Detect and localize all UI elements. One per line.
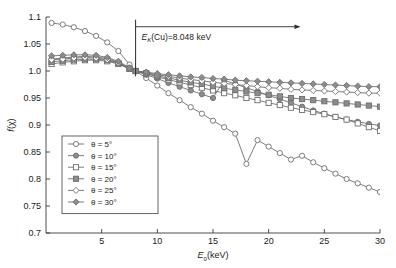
data-point-marker <box>288 95 293 100</box>
data-point-marker <box>71 25 76 30</box>
data-point-marker <box>333 171 338 176</box>
data-point-marker <box>266 92 271 97</box>
data-point-marker <box>199 92 204 97</box>
data-point-marker <box>333 100 338 105</box>
data-point-marker <box>377 189 382 194</box>
data-point-marker <box>377 128 382 133</box>
data-point-marker <box>177 98 182 103</box>
x-tick-label: 5 <box>99 236 104 246</box>
data-point-marker <box>105 40 110 45</box>
y-axis-title: f(χ) <box>6 118 16 131</box>
data-point-marker <box>377 104 382 109</box>
data-point-marker <box>210 118 215 123</box>
y-tick-label: 0.9 <box>28 120 41 130</box>
data-point-marker <box>366 103 371 108</box>
data-point-marker <box>166 91 171 96</box>
data-point-marker <box>60 22 65 27</box>
data-point-marker <box>322 112 327 117</box>
data-point-marker <box>155 83 160 88</box>
data-point-marker <box>210 95 215 100</box>
data-point-marker <box>255 138 260 143</box>
data-point-marker <box>311 98 316 103</box>
data-point-marker <box>188 105 193 110</box>
data-point-marker <box>94 33 99 38</box>
x-tick-label: 10 <box>152 236 162 246</box>
data-point-marker <box>73 176 78 181</box>
legend-label: θ = 15° <box>91 163 117 172</box>
y-tick-label: 1.0 <box>28 66 41 76</box>
y-axis-title-text: f(χ) <box>6 118 16 131</box>
data-point-marker <box>277 102 282 107</box>
data-point-marker <box>311 160 316 165</box>
y-tick-label: 0.85 <box>23 147 41 157</box>
data-point-marker <box>344 117 349 122</box>
data-point-marker <box>322 166 327 171</box>
x-tick-label: 15 <box>208 236 218 246</box>
data-point-marker <box>366 125 371 130</box>
legend-label: θ = 25° <box>91 186 117 195</box>
data-point-marker <box>299 107 304 112</box>
x-axis-title-text: E0(keV) <box>198 250 229 262</box>
y-tick-label: 1.05 <box>23 39 41 49</box>
legend-label: θ = 10° <box>91 152 117 161</box>
data-point-marker <box>73 153 78 158</box>
data-point-marker <box>355 181 360 186</box>
x-tick-label: 25 <box>319 236 329 246</box>
data-point-marker <box>355 121 360 126</box>
data-point-marker <box>73 165 78 170</box>
data-point-marker <box>366 185 371 190</box>
data-point-marker <box>233 93 238 98</box>
data-point-marker <box>288 105 293 110</box>
legend-label: θ = 20° <box>91 175 117 184</box>
data-point-marker <box>188 88 193 93</box>
data-point-marker <box>344 101 349 106</box>
x-tick-label: 30 <box>375 236 385 246</box>
data-point-marker <box>377 123 382 128</box>
xray-attenuation-line-chart: 0.70.750.80.850.90.951.01.051.1510152025… <box>0 0 396 268</box>
legend-label: θ = 30° <box>91 198 117 207</box>
data-point-marker <box>116 48 121 53</box>
data-point-marker <box>344 176 349 181</box>
y-tick-label: 0.8 <box>28 174 41 184</box>
data-point-marker <box>266 144 271 149</box>
data-point-marker <box>49 20 54 25</box>
data-point-marker <box>355 102 360 107</box>
data-point-marker <box>222 125 227 130</box>
x-tick-label: 20 <box>264 236 274 246</box>
chart-container: 0.70.750.80.850.90.951.01.051.1510152025… <box>0 0 396 268</box>
legend-label: θ = 5° <box>91 140 112 149</box>
data-point-marker <box>199 111 204 116</box>
data-point-marker <box>244 89 249 94</box>
data-point-marker <box>82 28 87 33</box>
y-tick-label: 0.75 <box>23 201 41 211</box>
data-point-marker <box>244 95 249 100</box>
data-point-marker <box>244 161 249 166</box>
data-point-marker <box>311 109 316 114</box>
y-tick-label: 1.1 <box>28 12 41 22</box>
data-point-marker <box>233 131 238 136</box>
data-point-marker <box>277 94 282 99</box>
data-point-marker <box>255 91 260 96</box>
k-edge-annotation-text: EK(Cu)=8.048 keV <box>142 32 212 43</box>
data-point-marker <box>299 96 304 101</box>
data-point-marker <box>255 98 260 103</box>
y-tick-label: 0.95 <box>23 93 41 103</box>
data-point-marker <box>288 157 293 162</box>
x-axis-title: E0(keV) <box>198 250 229 262</box>
data-point-marker <box>266 100 271 105</box>
data-point-marker <box>333 114 338 119</box>
data-point-marker <box>299 153 304 158</box>
data-point-marker <box>277 150 282 155</box>
data-point-marker <box>73 141 78 146</box>
y-tick-label: 0.7 <box>28 228 41 238</box>
legend[interactable]: θ = 5°θ = 10°θ = 15°θ = 20°θ = 25°θ = 30… <box>62 136 158 214</box>
data-point-marker <box>322 99 327 104</box>
